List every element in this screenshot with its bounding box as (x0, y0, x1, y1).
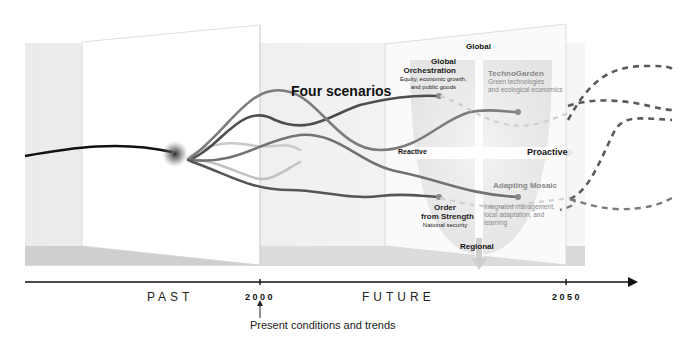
timeline-future-label: FUTURE (362, 290, 435, 304)
scenario-adapting-mosaic-title: Adapting Mosaic (493, 181, 557, 190)
present-blur (162, 141, 188, 167)
scenario-diagram: Four scenarios Global Regional Reactive … (0, 0, 700, 349)
scenario-order-from-strength: Order from Strength National security (421, 203, 469, 229)
timeline-past-label: PAST (147, 290, 193, 304)
scenario-global-orchestration: Global Orchestration Equity, economic gr… (400, 57, 456, 91)
diagram-title: Four scenarios (291, 83, 391, 99)
scenario-technogarden: TechnoGarden Green technologies and ecol… (488, 69, 562, 94)
axis-label-global: Global (466, 42, 491, 51)
diagram-canvas (0, 0, 700, 349)
axis-label-reactive: Reactive (398, 148, 427, 155)
axis-label-regional: Regional (460, 242, 494, 251)
timeline-year-2000: 2000 (245, 292, 275, 302)
scenario-adapting-mosaic-desc: Integrated management, local adaptation,… (484, 203, 555, 227)
timeline-year-2050: 2050 (552, 292, 582, 302)
axis-label-proactive: Proactive (527, 147, 568, 157)
time-axis-arrowhead (628, 277, 638, 287)
present-conditions-note: Present conditions and trends (250, 319, 396, 331)
